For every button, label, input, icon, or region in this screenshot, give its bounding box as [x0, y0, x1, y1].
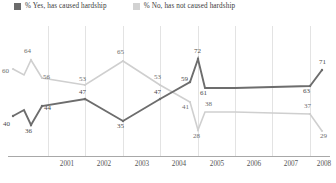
series-line-yes — [13, 59, 322, 125]
data-label-yes-2000: 40 — [3, 121, 10, 128]
data-label-no-2004: 53 — [154, 74, 161, 81]
data-label-no-2005a: 41 — [182, 104, 189, 111]
data-label-yes-2005c: 61 — [200, 90, 207, 97]
x-tick-2008: 2008 — [317, 160, 331, 168]
x-axis: 2001 2002 2003 2004 2005 2006 2007 2008 — [0, 160, 336, 174]
data-label-yes-2000c: 36 — [25, 128, 32, 135]
x-tick-2007: 2007 — [284, 160, 298, 168]
plot-area: 60 64 56 53 65 53 41 28 38 37 29 40 36 4… — [0, 26, 336, 157]
legend-item-yes: % Yes, has caused hardship — [14, 2, 107, 10]
data-label-yes-2005b: 72 — [194, 48, 201, 55]
data-label-no-2005b: 28 — [193, 133, 200, 140]
legend-swatch-no — [133, 3, 140, 10]
data-label-yes-2001: 44 — [44, 105, 51, 112]
gridlines — [49, 26, 311, 157]
data-label-yes-2008b: 71 — [319, 59, 326, 66]
x-tick-2001: 2001 — [60, 160, 74, 168]
data-label-no-2003: 65 — [117, 49, 124, 56]
data-label-no-2002: 53 — [79, 76, 86, 83]
x-tick-2004: 2004 — [172, 160, 186, 168]
x-tick-2002: 2002 — [97, 160, 111, 168]
data-label-yes-2008a: 63 — [303, 88, 310, 95]
series-markers-yes — [12, 58, 323, 126]
legend-swatch-yes — [14, 3, 21, 10]
data-label-no-2000: 60 — [2, 68, 9, 75]
data-label-yes-2003: 35 — [117, 123, 124, 130]
x-tick-2005: 2005 — [210, 160, 224, 168]
legend-label-yes: % Yes, has caused hardship — [25, 2, 107, 10]
data-label-no-2001: 56 — [43, 74, 50, 81]
x-tick-2006: 2006 — [247, 160, 261, 168]
line-chart: % Yes, has caused hardship % No, has not… — [0, 0, 336, 183]
data-label-no-2008a: 37 — [304, 103, 311, 110]
legend-label-no: % No, has not caused hardship — [144, 2, 236, 10]
legend-item-no: % No, has not caused hardship — [133, 2, 236, 10]
data-label-yes-2005a: 59 — [181, 76, 188, 83]
data-label-no-2000c: 64 — [24, 48, 31, 55]
data-label-no-2005c: 38 — [205, 101, 212, 108]
chart-legend: % Yes, has caused hardship % No, has not… — [14, 2, 235, 10]
data-label-yes-2002: 47 — [79, 89, 86, 96]
x-tick-2003: 2003 — [135, 160, 149, 168]
data-label-no-2008b: 29 — [320, 133, 327, 140]
data-label-yes-2004: 47 — [154, 89, 161, 96]
